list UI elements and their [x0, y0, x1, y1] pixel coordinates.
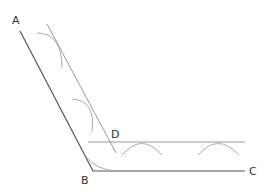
label-a: A: [12, 14, 20, 27]
arc-corner-b: [86, 157, 118, 171]
label-d: D: [111, 128, 119, 141]
diagram-svg: A B C D: [0, 0, 272, 196]
label-c: C: [249, 165, 257, 178]
label-b: B: [81, 174, 89, 187]
arc-bottom-middle: [122, 144, 162, 156]
geometry-diagram: A B C D: [0, 0, 272, 196]
arc-bottom-right: [198, 144, 239, 156]
arc-upper-left: [37, 33, 62, 68]
